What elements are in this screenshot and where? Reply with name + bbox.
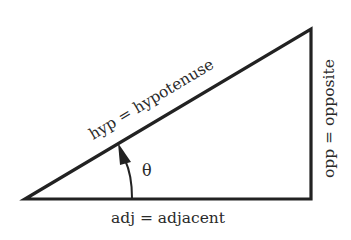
angle-label: θ <box>142 161 152 180</box>
angle-arrowhead-icon <box>118 143 131 165</box>
right-triangle <box>25 29 311 199</box>
opposite-label: opp = opposite <box>320 59 338 178</box>
angle-arc <box>125 160 132 198</box>
adjacent-label: adj = adjacent <box>111 209 226 227</box>
right-triangle-diagram: θ hyp = hypotenuse opp = opposite adj = … <box>0 0 351 240</box>
hypotenuse-label: hyp = hypotenuse <box>86 55 217 143</box>
